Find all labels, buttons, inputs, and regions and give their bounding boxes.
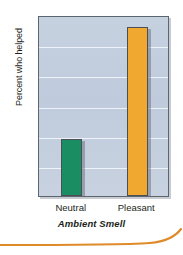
bar-shadow-neutral (82, 141, 85, 196)
bar-neutral (61, 139, 82, 196)
orange-curve-rule (0, 228, 183, 255)
y-axis-title: Percent who helped (14, 2, 24, 132)
x-tick-label-pleasant: Pleasant (118, 202, 155, 213)
bar-chart-figure: Percent who helped 6050403020100 Neutral… (0, 0, 183, 255)
bar-pleasant (127, 27, 148, 196)
bar-shadow-pleasant (148, 29, 151, 196)
plot-area (38, 16, 169, 197)
x-tick-label-neutral: Neutral (55, 202, 86, 213)
